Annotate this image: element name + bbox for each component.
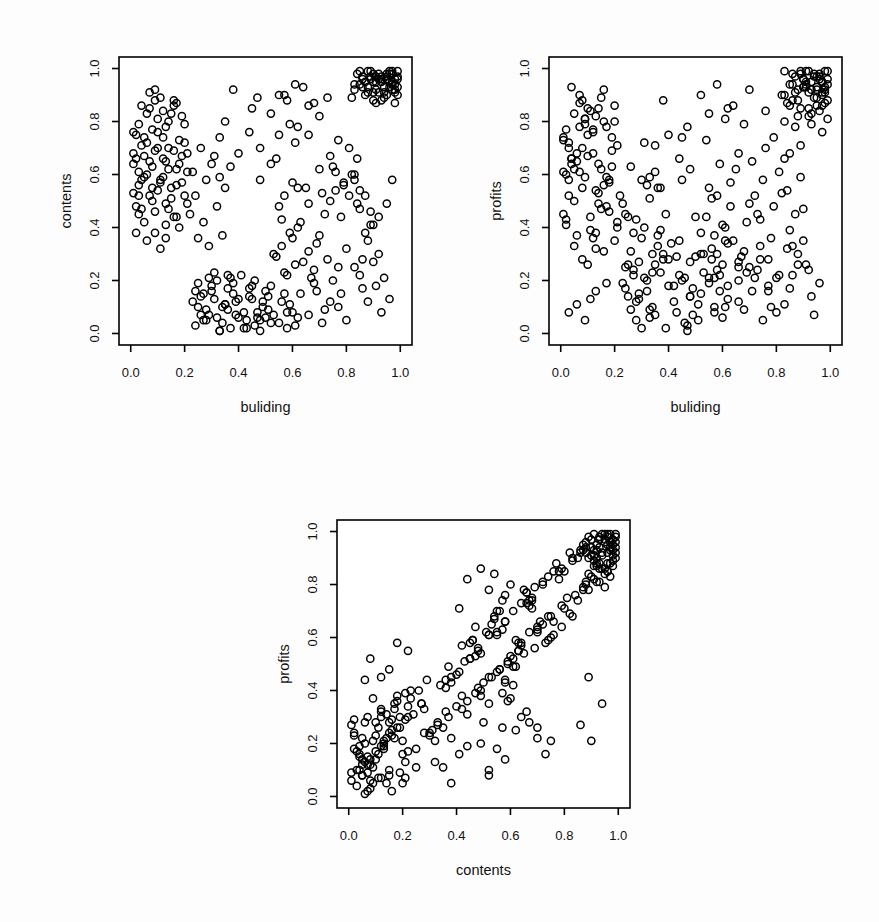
x-tick-label: 1.0 [821,365,839,380]
x-tick-label: 0.0 [122,365,140,380]
x-axis-title: buliding [241,399,291,415]
y-tick-label: 0.2 [517,271,532,289]
x-tick-label: 0.6 [501,828,519,843]
x-tick-label: 1.0 [609,828,627,843]
x-tick-label: 0.8 [337,365,355,380]
x-tick-label: 1.0 [391,365,409,380]
x-tick-label: 0.4 [230,365,248,380]
y-tick-label: 0.6 [87,165,102,183]
x-tick-label: 0.4 [660,365,678,380]
scatter-plot-contents-profits: 0.00.00.20.20.40.40.60.60.80.81.01.0cont… [273,503,645,893]
plot-box [337,520,630,808]
y-tick-label: 0.0 [517,324,532,342]
x-tick-label: 0.2 [606,365,624,380]
x-tick-label: 0.8 [555,828,573,843]
y-axis-title: profits [488,181,504,221]
y-tick-label: 0.4 [305,681,320,699]
x-tick-label: 0.8 [767,365,785,380]
y-tick-label: 0.6 [305,628,320,646]
y-tick-label: 0.4 [517,218,532,236]
y-tick-label: 0.8 [87,112,102,130]
y-tick-label: 0.8 [305,575,320,593]
y-tick-label: 0.2 [305,734,320,752]
page: 0.00.00.20.20.40.40.60.60.80.81.01.0buli… [0,0,879,922]
x-axis-title: buliding [671,399,721,415]
y-axis-title: contents [58,174,74,229]
x-tick-label: 0.2 [176,365,194,380]
y-tick-label: 0.8 [517,112,532,130]
scatter-plot-buliding-contents: 0.00.00.20.20.40.40.60.60.80.81.01.0buli… [55,40,427,430]
y-tick-label: 1.0 [87,59,102,77]
scatter-plot-buliding-profits: 0.00.00.20.20.40.40.60.60.80.81.01.0buli… [485,40,857,430]
x-tick-label: 0.0 [340,828,358,843]
x-axis-title: contents [456,862,511,878]
y-tick-label: 1.0 [517,59,532,77]
y-tick-label: 0.2 [87,271,102,289]
figure-buliding-contents: 0.00.00.20.20.40.40.60.60.80.81.01.0buli… [55,40,427,430]
figure-buliding-profits: 0.00.00.20.20.40.40.60.60.80.81.01.0buli… [485,40,857,430]
y-tick-label: 1.0 [305,522,320,540]
y-axis-title: profits [276,644,292,684]
x-tick-label: 0.6 [713,365,731,380]
y-tick-label: 0.4 [87,218,102,236]
y-tick-label: 0.0 [87,324,102,342]
x-tick-label: 0.2 [394,828,412,843]
x-tick-label: 0.6 [283,365,301,380]
y-tick-label: 0.6 [517,165,532,183]
y-tick-label: 0.0 [305,787,320,805]
x-tick-label: 0.0 [552,365,570,380]
x-tick-label: 0.4 [448,828,466,843]
figure-contents-profits: 0.00.00.20.20.40.40.60.60.80.81.01.0cont… [273,503,645,893]
